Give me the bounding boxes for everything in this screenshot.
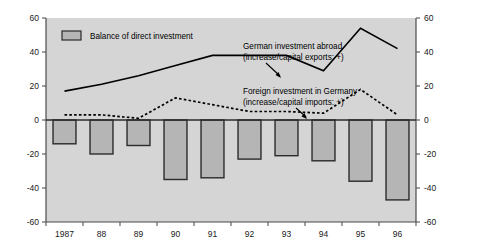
annotation-german-investment-abroad-line2: (increase/capital exports: +): [243, 53, 344, 62]
right-axis-tick-labels: 6040200-20-40-60: [424, 13, 437, 227]
x-tick-label-94: 94: [319, 229, 329, 239]
y-tick-label-left: 20: [30, 81, 40, 91]
x-tick-label-1987: 1987: [55, 229, 74, 239]
x-tick-label-89: 89: [134, 229, 144, 239]
y-tick-label-left: 0: [34, 115, 39, 125]
annotation-foreign-investment-in-germany-line1: Foreign investment in Germany: [243, 87, 358, 96]
y-tick-label-right: -60: [424, 217, 437, 227]
x-tick-label-95: 95: [356, 229, 366, 239]
investment-balance-chart: 6040200-20-40-60 6040200-20-40-60 198788…: [0, 0, 480, 251]
x-tick-label-93: 93: [282, 229, 292, 239]
left-axis-tick-labels: 6040200-20-40-60: [27, 13, 40, 227]
bar-88: [90, 120, 113, 154]
y-tick-label-right: -40: [424, 183, 437, 193]
bar-96: [386, 120, 409, 200]
y-tick-label-right: 20: [424, 81, 434, 91]
bar-92: [238, 120, 261, 159]
y-tick-label-left: 40: [30, 47, 40, 57]
chart-container: 6040200-20-40-60 6040200-20-40-60 198788…: [0, 0, 480, 251]
x-tick-label-88: 88: [97, 229, 107, 239]
y-tick-label-right: 60: [424, 13, 434, 23]
annotation-foreign-investment-in-germany-line2: (increase/capital imports: +): [243, 98, 344, 107]
y-tick-label-left: 60: [30, 13, 40, 23]
x-tick-label-91: 91: [208, 229, 218, 239]
legend-swatch-balance-of-direct-investment: [62, 31, 81, 40]
x-axis-tick-labels: 1987888990919293949596: [55, 229, 402, 239]
bar-95: [349, 120, 372, 181]
y-tick-label-right: 40: [424, 47, 434, 57]
x-tick-label-90: 90: [171, 229, 181, 239]
bar-93: [275, 120, 298, 156]
bar-94: [312, 120, 335, 161]
bar-91: [201, 120, 224, 178]
legend-label-balance-of-direct-investment: Balance of direct investment: [90, 32, 194, 41]
y-tick-label-left: -20: [27, 149, 40, 159]
y-tick-label-left: -40: [27, 183, 40, 193]
bar-90: [164, 120, 187, 180]
x-tick-label-92: 92: [245, 229, 255, 239]
y-tick-label-right: 0: [424, 115, 429, 125]
bar-1987: [53, 120, 76, 144]
x-tick-label-96: 96: [393, 229, 403, 239]
y-tick-label-left: -60: [27, 217, 40, 227]
annotation-german-investment-abroad-line1: German investment abroad: [243, 42, 343, 51]
x-axis-ticks: [46, 222, 416, 226]
bar-89: [127, 120, 150, 146]
y-tick-label-right: -20: [424, 149, 437, 159]
